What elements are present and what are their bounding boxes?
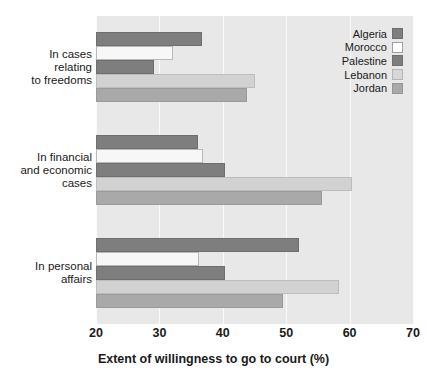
bar-morocco-group-1: [96, 46, 173, 60]
bar-group-3: [96, 221, 413, 324]
legend-item-palestine[interactable]: Palestine: [305, 54, 403, 68]
legend-swatch-lebanon: [392, 69, 403, 80]
bar-algeria-group-2: [96, 135, 198, 149]
legend-label-algeria: Algeria: [353, 28, 387, 40]
bar-lebanon-group-2: [96, 177, 352, 191]
x-tick-label-30: 30: [152, 326, 166, 340]
legend-swatch-morocco: [392, 42, 403, 53]
bar-morocco-group-2: [96, 149, 203, 163]
legend-item-morocco[interactable]: Morocco: [305, 41, 403, 55]
legend-item-algeria[interactable]: Algeria: [305, 27, 403, 41]
legend-label-lebanon: Lebanon: [344, 69, 387, 81]
x-axis-ticks: 203040506070: [96, 326, 413, 344]
legend-swatch-jordan: [392, 83, 403, 94]
bar-algeria-group-3: [96, 238, 299, 252]
bar-palestine-group-2: [96, 163, 225, 177]
x-tick-label-50: 50: [279, 326, 293, 340]
bar-lebanon-group-3: [96, 280, 339, 294]
x-tick-label-60: 60: [343, 326, 357, 340]
gridline-70: [413, 16, 414, 324]
category-label-3: In personal affairs: [0, 260, 92, 286]
bar-jordan-group-3: [96, 294, 283, 308]
legend-item-jordan[interactable]: Jordan: [305, 81, 403, 95]
bar-jordan-group-2: [96, 191, 322, 205]
bar-palestine-group-1: [96, 60, 154, 74]
x-tick-label-20: 20: [89, 326, 103, 340]
legend-swatch-palestine: [392, 55, 403, 66]
legend-item-lebanon[interactable]: Lebanon: [305, 68, 403, 82]
legend-label-jordan: Jordan: [353, 82, 387, 94]
bar-algeria-group-1: [96, 32, 202, 46]
bar-group-2: [96, 119, 413, 222]
x-axis-title: Extent of willingness to go to court (%): [0, 352, 427, 366]
bar-morocco-group-3: [96, 252, 199, 266]
legend-label-morocco: Morocco: [345, 41, 387, 53]
bar-chart-figure: In cases relating to freedomsIn financia…: [0, 0, 427, 377]
legend-label-palestine: Palestine: [342, 55, 387, 67]
category-label-2: In financial and economic cases: [0, 151, 92, 190]
bar-palestine-group-3: [96, 266, 225, 280]
bar-jordan-group-1: [96, 88, 247, 102]
legend: AlgeriaMoroccoPalestineLebanonJordan: [305, 27, 403, 95]
legend-swatch-algeria: [392, 28, 403, 39]
x-tick-label-40: 40: [216, 326, 230, 340]
bar-lebanon-group-1: [96, 74, 255, 88]
category-label-1: In cases relating to freedoms: [0, 48, 92, 87]
x-tick-label-70: 70: [406, 326, 420, 340]
